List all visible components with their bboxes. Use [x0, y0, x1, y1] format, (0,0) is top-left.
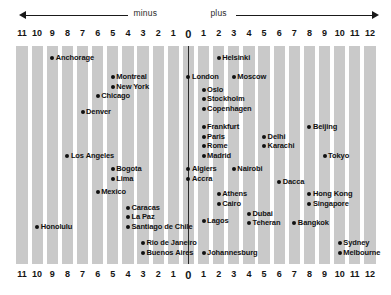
- city-dot-icon: [141, 241, 145, 245]
- axis-tick-plus5: 5: [262, 28, 267, 38]
- city-label: London: [192, 72, 219, 82]
- city-dot-icon: [247, 212, 251, 216]
- timezone-column-plus11: [349, 46, 360, 264]
- axis-tick-plus8: 8: [307, 269, 312, 279]
- axis-tick-plus9: 9: [322, 28, 327, 38]
- city-marker: Karachi: [262, 141, 294, 151]
- city-label: Algiers: [192, 164, 217, 174]
- axis-tick-minus4: 4: [125, 28, 130, 38]
- city-marker: London: [186, 72, 218, 82]
- city-label: Nairobi: [237, 164, 262, 174]
- city-label: Honolulu: [41, 222, 73, 232]
- city-label: La Paz: [131, 212, 154, 222]
- axis-tick-minus1: 1: [171, 28, 176, 38]
- city-dot-icon: [202, 97, 206, 101]
- city-marker: Athens: [217, 189, 247, 199]
- city-dot-icon: [202, 107, 206, 111]
- city-marker: Beijing: [307, 122, 337, 132]
- axis-tick-plus12: 12: [365, 28, 375, 38]
- city-dot-icon: [186, 177, 190, 181]
- city-dot-icon: [217, 192, 221, 196]
- axis-tick-minus6: 6: [95, 28, 100, 38]
- axis-tick-minus7: 7: [80, 28, 85, 38]
- city-dot-icon: [292, 221, 296, 225]
- city-label: Tokyo: [328, 151, 349, 161]
- city-marker: Dacca: [277, 177, 304, 187]
- city-marker: Melbourne: [338, 248, 381, 258]
- timezone-column-plus8: [304, 46, 315, 264]
- axis-tick-plus8: 8: [307, 28, 312, 38]
- city-label: Copenhagen: [207, 104, 251, 114]
- city-marker: La Paz: [126, 212, 155, 222]
- city-marker: Tokyo: [323, 151, 350, 161]
- city-marker: Helsinki: [217, 53, 250, 63]
- city-label: Anchorage: [56, 53, 94, 63]
- city-label: New York: [116, 82, 149, 92]
- direction-header: minus plus: [0, 8, 391, 24]
- city-marker: Honolulu: [35, 222, 72, 232]
- axis-tick-minus1: 1: [171, 269, 176, 279]
- city-label: Bangkok: [298, 218, 329, 228]
- city-marker: Copenhagen: [202, 104, 252, 114]
- city-label: Teheran: [252, 218, 280, 228]
- axis-tick-minus3: 3: [141, 269, 146, 279]
- city-marker: Denver: [81, 107, 111, 117]
- axis-tick-plus1: 1: [201, 269, 206, 279]
- axis-tick-minus2: 2: [156, 269, 161, 279]
- city-dot-icon: [50, 56, 54, 60]
- city-marker: Oslo: [202, 85, 224, 95]
- axis-tick-plus7: 7: [292, 28, 297, 38]
- axis-tick-minus9: 9: [50, 269, 55, 279]
- axis-tick-minus6: 6: [95, 269, 100, 279]
- city-label: Rome: [207, 141, 227, 151]
- city-dot-icon: [338, 241, 342, 245]
- city-label: Lagos: [207, 216, 229, 226]
- timezone-column-minus11: [16, 46, 27, 264]
- city-dot-icon: [262, 144, 266, 148]
- axis-tick-plus2: 2: [216, 28, 221, 38]
- timezone-chart: minus plus 11109876543210123456789101112…: [0, 0, 391, 295]
- city-dot-icon: [202, 154, 206, 158]
- city-marker: Delhi: [262, 132, 285, 142]
- axis-tick-plus12: 12: [365, 269, 375, 279]
- axis-tick-plus0: 0: [185, 269, 191, 281]
- city-marker: Stockholm: [202, 94, 245, 104]
- city-label: Santiago de Chile: [131, 222, 192, 232]
- city-label: Dacca: [283, 177, 305, 187]
- city-label: Chicago: [101, 91, 130, 101]
- city-dot-icon: [111, 75, 115, 79]
- city-marker: Anchorage: [50, 53, 94, 63]
- plus-arrow-line: [236, 15, 372, 16]
- city-marker: Frankfurt: [202, 122, 240, 132]
- axis-tick-plus11: 11: [350, 28, 360, 38]
- axis-tick-minus11: 11: [17, 269, 27, 279]
- city-dot-icon: [307, 192, 311, 196]
- city-marker: Hong Kong: [307, 189, 352, 199]
- city-marker: New York: [111, 82, 149, 92]
- axis-tick-plus2: 2: [216, 269, 221, 279]
- city-label: Singapore: [313, 199, 349, 209]
- city-marker: Los Angeles: [65, 151, 114, 161]
- timezone-column-plus6: [274, 46, 285, 264]
- city-marker: Bangkok: [292, 218, 328, 228]
- axis-tick-plus0: 0: [185, 28, 191, 40]
- city-dot-icon: [323, 154, 327, 158]
- axis-tick-plus7: 7: [292, 269, 297, 279]
- city-marker: Dubai: [247, 209, 273, 219]
- city-dot-icon: [217, 202, 221, 206]
- city-dot-icon: [262, 135, 266, 139]
- axis-tick-minus4: 4: [125, 269, 130, 279]
- city-dot-icon: [338, 251, 342, 255]
- plus-arrow-head-icon: [372, 11, 379, 19]
- city-dot-icon: [202, 88, 206, 92]
- axis-tick-plus10: 10: [335, 28, 345, 38]
- city-label: Los Angeles: [71, 151, 114, 161]
- city-dot-icon: [111, 177, 115, 181]
- city-marker: Rome: [202, 141, 228, 151]
- axis-tick-plus4: 4: [246, 269, 251, 279]
- city-dot-icon: [202, 251, 206, 255]
- axis-tick-plus11: 11: [350, 269, 360, 279]
- city-marker: Paris: [202, 132, 225, 142]
- axis-tick-plus5: 5: [262, 269, 267, 279]
- city-label: Moscow: [237, 72, 266, 82]
